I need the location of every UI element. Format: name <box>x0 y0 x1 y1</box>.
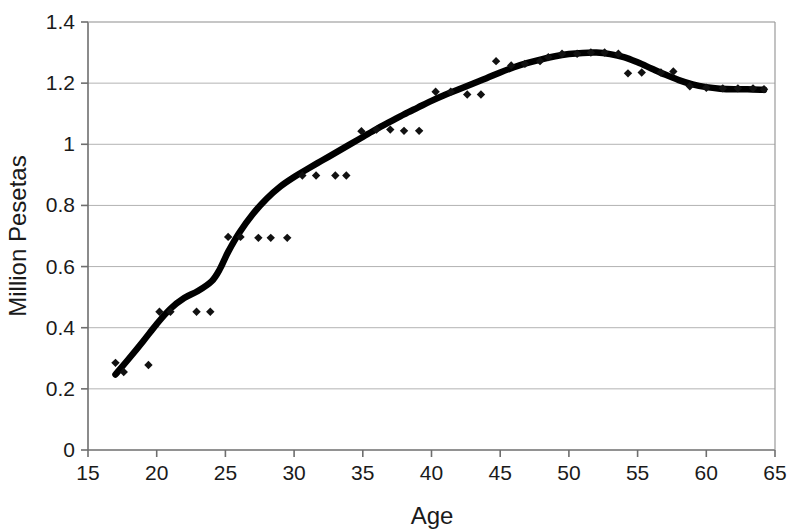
y-tick-label: 1.4 <box>46 10 76 33</box>
x-tick-label: 60 <box>695 461 718 484</box>
y-tick-label: 1 <box>63 132 75 155</box>
chart-container: 1520253035404550556065 00.20.40.60.811.2… <box>0 0 794 532</box>
x-axis-title: Age <box>411 502 454 529</box>
x-tick-label: 55 <box>626 461 649 484</box>
x-tick-label: 40 <box>420 461 443 484</box>
y-tick-label: 0.4 <box>46 316 76 339</box>
x-tick-label: 25 <box>214 461 237 484</box>
x-tick-label: 15 <box>76 461 99 484</box>
x-tick-label: 20 <box>145 461 168 484</box>
x-tick-label: 45 <box>489 461 512 484</box>
y-tick-label: 1.2 <box>46 71 75 94</box>
y-tick-label: 0.2 <box>46 377 75 400</box>
x-tick-label: 35 <box>351 461 374 484</box>
x-tick-label: 65 <box>763 461 786 484</box>
y-axis-title: Million Pesetas <box>4 155 31 316</box>
y-tick-label: 0 <box>63 438 75 461</box>
y-tick-label: 0.6 <box>46 255 75 278</box>
x-tick-label: 50 <box>557 461 580 484</box>
y-tick-label: 0.8 <box>46 193 75 216</box>
scatter-plot: 1520253035404550556065 00.20.40.60.811.2… <box>0 0 794 532</box>
x-tick-label: 30 <box>282 461 305 484</box>
